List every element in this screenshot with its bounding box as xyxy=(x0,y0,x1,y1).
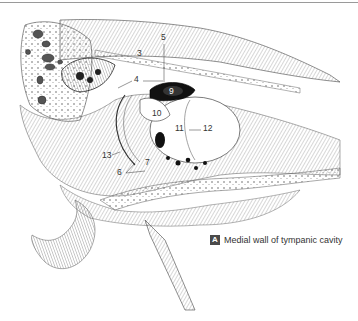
caption-letter-badge: A xyxy=(210,235,220,245)
label-11: 11 xyxy=(175,124,184,133)
label-9: 9 xyxy=(169,87,174,96)
label-6: 6 xyxy=(117,168,122,177)
label-10: 10 xyxy=(152,109,161,118)
tympanic-cavity-illustration xyxy=(0,0,358,321)
label-4: 4 xyxy=(134,75,139,84)
label-5: 5 xyxy=(161,33,166,42)
label-12: 12 xyxy=(203,124,212,133)
label-7: 7 xyxy=(145,158,150,167)
figure-caption: A Medial wall of tympanic cavity xyxy=(210,235,343,245)
caption-text: Medial wall of tympanic cavity xyxy=(224,235,343,245)
label-3: 3 xyxy=(137,49,142,58)
label-13: 13 xyxy=(102,151,111,160)
